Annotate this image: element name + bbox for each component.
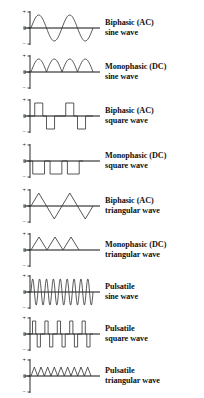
waveform-label-line1: Pulsatile: [105, 324, 204, 334]
waveform-label-line2: sine wave: [105, 28, 204, 38]
waveform-trace: [31, 59, 93, 72]
waveform-plot-pulsatile-triangular: +0−: [0, 354, 104, 398]
waveform-label-line2: sine wave: [105, 292, 204, 302]
waveform-plot-pulsatile-square: +0−: [0, 312, 104, 356]
waveform-label-line2: triangular wave: [105, 206, 204, 216]
waveform-label-biphasic-ac-square: Biphasic (AC)square wave: [104, 106, 204, 125]
axis-label-negative: −: [23, 262, 27, 269]
waveform-label-pulsatile-sine: Pulsatilesine wave: [104, 282, 204, 301]
waveform-row-biphasic-ac-triangular: +0−Biphasic (AC)triangular wave: [0, 184, 204, 228]
waveform-label-line1: Pulsatile: [105, 282, 204, 292]
waveform-label-monophasic-dc-square: Monophasic (DC)square wave: [104, 151, 204, 170]
waveform-plot-biphasic-ac-triangular: +0−: [0, 184, 104, 228]
waveform-label-line2: square wave: [105, 116, 204, 126]
waveform-label-pulsatile-triangular: Pulsatiletriangular wave: [104, 366, 204, 385]
waveform-row-biphasic-ac-sine: +0−Biphasic (AC)sine wave: [0, 6, 204, 50]
waveform-figure: +0−Biphasic (AC)sine wave+0−Monophasic (…: [0, 0, 204, 398]
waveform-label-line1: Monophasic (DC): [105, 62, 204, 72]
axis-label-positive: +: [23, 52, 27, 59]
waveform-label-line2: square wave: [105, 161, 204, 171]
waveform-trace: [31, 237, 79, 250]
axis-label-positive: +: [23, 272, 27, 279]
axis-label-negative: −: [23, 128, 27, 135]
waveform-label-line1: Monophasic (DC): [105, 240, 204, 250]
waveform-trace: [31, 367, 91, 376]
waveform-plot-monophasic-dc-square: +0−: [0, 139, 104, 183]
axis-label-positive: +: [23, 230, 27, 237]
axis-label-positive: +: [23, 314, 27, 321]
waveform-row-pulsatile-triangular: +0−Pulsatiletriangular wave: [0, 354, 204, 398]
axis-label-negative: −: [23, 40, 27, 47]
waveform-label-line1: Biphasic (AC): [105, 106, 204, 116]
waveform-row-monophasic-dc-sine: +0−Monophasic (DC)sine wave: [0, 50, 204, 94]
waveform-label-line2: triangular wave: [105, 376, 204, 386]
waveform-row-monophasic-dc-triangular: +0−Monophasic (DC)triangular wave: [0, 228, 204, 272]
waveform-label-line1: Pulsatile: [105, 366, 204, 376]
waveform-label-line1: Biphasic (AC): [105, 18, 204, 28]
waveform-label-line1: Biphasic (AC): [105, 196, 204, 206]
axis-label-positive: +: [23, 356, 27, 363]
waveform-label-line2: sine wave: [105, 72, 204, 82]
waveform-label-monophasic-dc-sine: Monophasic (DC)sine wave: [104, 62, 204, 81]
waveform-plot-monophasic-dc-sine: +0−: [0, 50, 104, 94]
axis-label-positive: +: [23, 141, 27, 148]
waveform-label-line1: Monophasic (DC): [105, 151, 204, 161]
waveform-label-pulsatile-square: Pulsatilesquare wave: [104, 324, 204, 343]
waveform-label-biphasic-ac-sine: Biphasic (AC)sine wave: [104, 18, 204, 37]
waveform-label-biphasic-ac-triangular: Biphasic (AC)triangular wave: [104, 196, 204, 215]
waveform-plot-monophasic-dc-triangular: +0−: [0, 228, 104, 272]
axis-label-negative: −: [23, 388, 27, 395]
waveform-label-line2: triangular wave: [105, 250, 204, 260]
waveform-plot-biphasic-ac-square: +0−: [0, 94, 104, 138]
waveform-row-pulsatile-square: +0−Pulsatilesquare wave: [0, 312, 204, 356]
axis-label-positive: +: [23, 186, 27, 193]
waveform-label-line2: square wave: [105, 334, 204, 344]
axis-label-positive: +: [23, 96, 27, 103]
axis-label-negative: −: [23, 173, 27, 180]
waveform-plot-biphasic-ac-sine: +0−: [0, 6, 104, 50]
axis-label-positive: +: [23, 8, 27, 15]
axis-label-negative: −: [23, 84, 27, 91]
axis-label-negative: −: [23, 218, 27, 225]
waveform-row-biphasic-ac-square: +0−Biphasic (AC)square wave: [0, 94, 204, 138]
axis-label-negative: −: [23, 346, 27, 353]
waveform-row-pulsatile-sine: +0−Pulsatilesine wave: [0, 270, 204, 314]
waveform-plot-pulsatile-sine: +0−: [0, 270, 104, 314]
waveform-trace: [31, 161, 83, 174]
axis-label-negative: −: [23, 304, 27, 311]
waveform-label-monophasic-dc-triangular: Monophasic (DC)triangular wave: [104, 240, 204, 259]
waveform-row-monophasic-dc-square: +0−Monophasic (DC)square wave: [0, 139, 204, 183]
